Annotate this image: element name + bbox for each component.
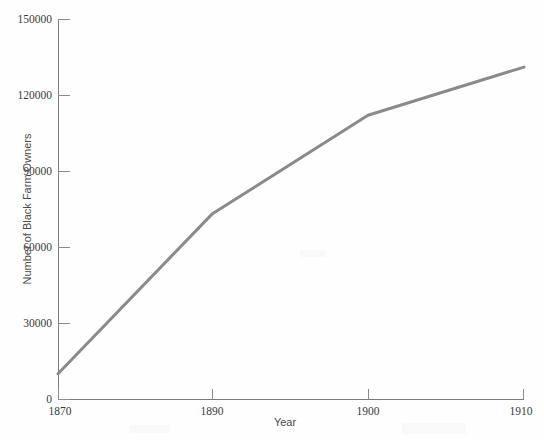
x-tick-label-1890: 1890 [201,405,224,417]
y-tick-label-120000: 120000 [18,89,53,101]
data-series-line [58,67,524,374]
y-tick-label-150000: 150000 [18,13,53,25]
y-tick-label-0: 0 [46,393,52,405]
x-axis-title: Year [274,416,297,428]
x-tick-label-1900: 1900 [357,405,380,417]
chart-page: 0 30000 60000 90000 120000 150000 1870 1… [0,0,544,440]
x-tick-label-1910: 1910 [510,405,533,417]
y-axis-title: Number of Black Farm Owners [21,133,33,284]
x-tick-label-1870: 1870 [49,405,72,417]
y-tick-label-30000: 30000 [23,317,52,329]
line-chart-figure: 0 30000 60000 90000 120000 150000 1870 1… [0,0,544,440]
chart-svg: 0 30000 60000 90000 120000 150000 1870 1… [0,0,544,440]
